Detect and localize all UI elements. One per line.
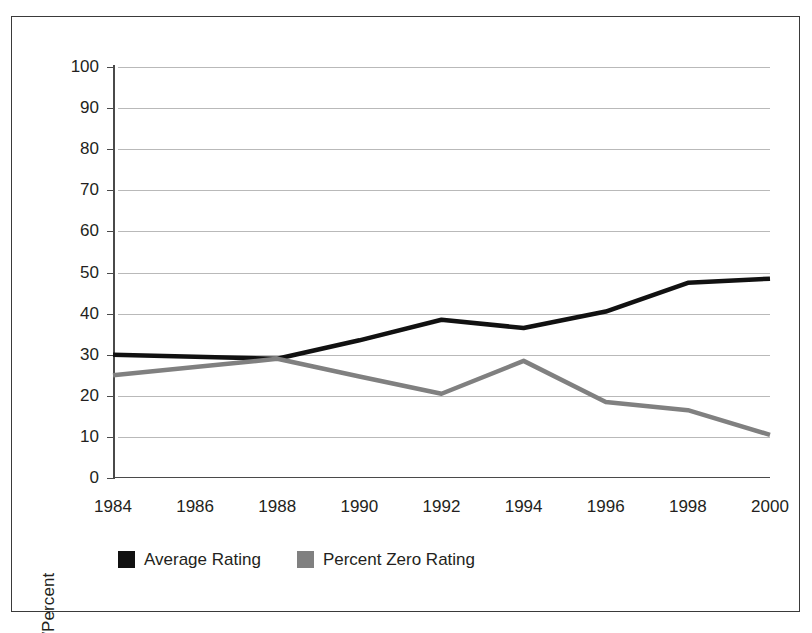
x-axis-tick-label: 1996 [571,498,641,515]
y-axis-tick-label: 50 [53,264,99,281]
x-axis-tick-label: 1998 [653,498,723,515]
y-axis-tick-label: 0 [53,469,99,486]
y-axis-title: Thermometer Rating/Percent [39,478,61,633]
y-axis-tick-label: 60 [53,222,99,239]
series-lines [113,67,770,478]
series-line [113,279,770,359]
y-axis-tick-label: 100 [53,58,99,75]
x-axis-tick-label: 1990 [324,498,394,515]
x-axis-tick-label: 1988 [242,498,312,515]
legend-item: Percent Zero Rating [297,551,475,568]
y-axis-tick-label: 90 [53,99,99,116]
y-axis-tick-label: 20 [53,387,99,404]
chart-legend: Average RatingPercent Zero Rating [118,551,475,568]
y-axis-tick-label: 80 [53,140,99,157]
legend-label: Average Rating [144,551,261,568]
x-axis-tick-label: 1984 [78,498,148,515]
series-line [113,359,770,435]
legend-item: Average Rating [118,551,261,568]
legend-label: Percent Zero Rating [323,551,475,568]
x-axis-tick-label: 1994 [489,498,559,515]
legend-swatch-average-rating [118,551,135,568]
y-axis-tick-label: 10 [53,428,99,445]
x-axis-tick-label: 1986 [160,498,230,515]
plot-area [113,67,770,478]
y-axis-tick-label: 30 [53,346,99,363]
chart-figure: Thermometer Rating/Percent 0102030405060… [0,0,812,633]
legend-swatch-percent-zero-rating [297,551,314,568]
y-axis-tick-label: 70 [53,181,99,198]
x-axis-tick-label: 1992 [407,498,477,515]
y-axis-tick-label: 40 [53,305,99,322]
x-axis-tick-label: 2000 [735,498,805,515]
